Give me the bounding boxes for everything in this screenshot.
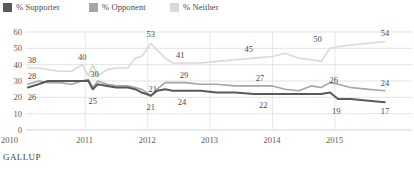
legend-label-supporter: % Supporter <box>16 2 60 12</box>
x-tick-label-2010: 2010 <box>1 135 18 145</box>
data-label-11: 24 <box>178 97 187 107</box>
data-label-9: 41 <box>176 50 185 60</box>
data-label-1: 28 <box>28 71 37 81</box>
data-label-10: 29 <box>180 70 189 80</box>
source-attribution: GALLUP <box>3 152 41 162</box>
data-label-0: 38 <box>28 55 37 65</box>
data-label-7: 21 <box>149 84 158 94</box>
data-label-6: 53 <box>147 29 156 39</box>
y-tick-label-40: 40 <box>14 60 23 70</box>
data-label-13: 27 <box>256 73 265 83</box>
legend-item-opponent[interactable]: % Opponent <box>89 2 146 12</box>
x-tick-label-2013: 2013 <box>201 135 218 145</box>
legend-item-neither[interactable]: % Neither <box>170 2 219 12</box>
chart-legend: % Supporter % Opponent % Neither <box>0 0 414 19</box>
data-label-20: 17 <box>381 106 390 116</box>
data-label-18: 54 <box>381 28 390 38</box>
data-label-3: 40 <box>78 52 87 62</box>
y-tick-label-10: 10 <box>14 109 23 119</box>
y-tick-label-60: 60 <box>14 27 23 37</box>
line-chart: 0102030405060201020112012201320142015382… <box>0 19 414 149</box>
y-tick-label-30: 30 <box>14 76 23 86</box>
data-label-14: 22 <box>259 100 268 110</box>
data-label-8: 21 <box>147 102 156 112</box>
chart-screenshot: % Supporter % Opponent % Neither 0102030… <box>0 0 414 174</box>
legend-swatch-opponent <box>89 3 98 12</box>
data-label-16: 26 <box>329 75 338 85</box>
legend-swatch-supporter <box>3 3 12 12</box>
data-label-15: 50 <box>313 34 322 44</box>
data-label-19: 24 <box>381 78 390 88</box>
legend-label-neither: % Neither <box>183 2 219 12</box>
data-label-2: 26 <box>28 92 37 102</box>
x-tick-label-2014: 2014 <box>264 135 282 145</box>
chart-plot-area: 0102030405060201020112012201320142015382… <box>0 19 414 149</box>
data-label-12: 45 <box>245 44 254 54</box>
data-label-4: 30 <box>90 69 99 79</box>
legend-item-supporter[interactable]: % Supporter <box>3 2 60 12</box>
x-tick-label-2011: 2011 <box>76 135 93 145</box>
x-tick-label-2015: 2015 <box>326 135 343 145</box>
x-tick-label-2012: 2012 <box>139 135 156 145</box>
data-label-5: 25 <box>89 96 98 106</box>
y-tick-label-0: 0 <box>18 125 22 135</box>
data-label-17: 19 <box>332 106 341 116</box>
legend-label-opponent: % Opponent <box>102 2 146 12</box>
legend-swatch-neither <box>170 3 179 12</box>
y-tick-label-20: 20 <box>14 92 23 102</box>
y-tick-label-50: 50 <box>14 43 23 53</box>
